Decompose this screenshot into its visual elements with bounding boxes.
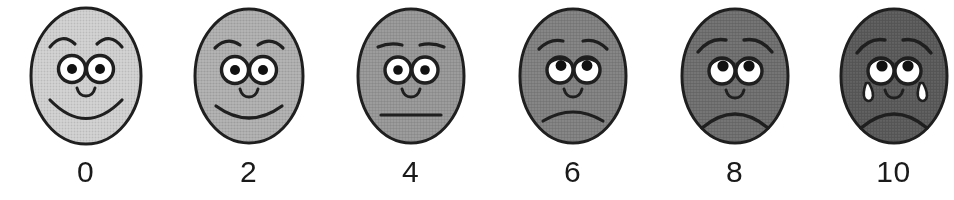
face-0-icon: [25, 4, 147, 156]
face-option-2[interactable]: 2: [169, 0, 328, 200]
face-option-6[interactable]: 6: [493, 0, 652, 200]
face-10-label: 10: [876, 157, 910, 187]
face-option-4[interactable]: 4: [331, 0, 490, 200]
face-4-icon: [350, 4, 472, 156]
face-10-tear-left: [863, 83, 872, 101]
face-option-10[interactable]: 10: [814, 0, 954, 200]
face-10-tear-right: [917, 83, 926, 101]
face-6-label: 6: [564, 157, 581, 187]
face-0-label: 0: [77, 157, 94, 187]
face-2-label: 2: [240, 157, 257, 187]
face-2-icon: [188, 4, 310, 156]
pain-rating-scale: 0 2: [0, 0, 954, 200]
face-8-icon: [674, 4, 796, 156]
face-option-8[interactable]: 8: [655, 0, 814, 200]
face-10-icon: [833, 4, 954, 156]
face-option-0[interactable]: 0: [6, 0, 165, 200]
face-6-icon: [512, 4, 634, 156]
face-4-label: 4: [402, 157, 419, 187]
face-8-label: 8: [726, 157, 743, 187]
